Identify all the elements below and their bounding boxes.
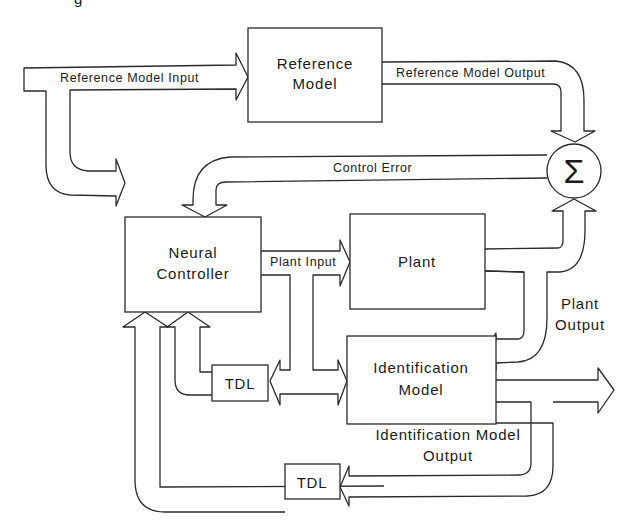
reference-model-output-label: Reference Model Output	[396, 66, 545, 80]
identification-model-block[interactable]: Identification Model	[347, 336, 496, 424]
title-fragment: g	[74, 0, 83, 7]
tdl-upper-block[interactable]: TDL	[212, 365, 268, 401]
neural-controller-block[interactable]: Neural Controller	[125, 217, 261, 312]
tdl-upper-label: TDL	[225, 375, 256, 392]
plant-output-label-line1: Plant	[561, 295, 599, 312]
identification-model-output-label-line2: Output	[423, 447, 473, 464]
upper-tdl-feedback-arrows	[167, 312, 212, 395]
plant-block[interactable]: Plant	[350, 214, 485, 309]
plant-output-label-line2: Output	[555, 316, 605, 333]
block-diagram-canvas: g Reference Model Ne	[0, 0, 637, 527]
neural-controller-label-line1: Neural	[169, 244, 218, 261]
summing-junction[interactable]: Σ	[547, 144, 601, 198]
reference-model-block[interactable]: Reference Model	[248, 28, 382, 122]
sigma-icon: Σ	[563, 152, 584, 190]
identification-model-output-arrow	[496, 368, 614, 413]
plant-label: Plant	[398, 253, 436, 270]
plant-input-label: Plant Input	[270, 255, 336, 269]
reference-model-label-line1: Reference	[277, 55, 353, 72]
neural-controller-label-line2: Controller	[156, 265, 229, 282]
identification-model-label-line1: Identification	[373, 359, 468, 376]
plant-output-to-sum-arrow	[485, 199, 596, 370]
tdl-lower-label: TDL	[297, 474, 328, 491]
reference-model-input-label: Reference Model Input	[60, 71, 199, 85]
control-error-label: Control Error	[333, 161, 412, 175]
reference-model-label-line2: Model	[293, 75, 338, 92]
identification-model-label-line2: Model	[399, 381, 444, 398]
identification-model-output-label-line1: Identification Model	[375, 426, 520, 443]
tdl-lower-block[interactable]: TDL	[285, 464, 340, 499]
plant-output-branch-arrow	[485, 271, 524, 272]
